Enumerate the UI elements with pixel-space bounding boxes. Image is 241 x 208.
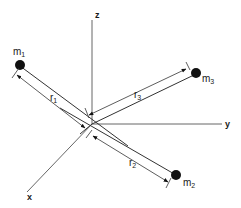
mass-m2-dot xyxy=(171,170,181,180)
dimension-lines: r1 r2 r3 xyxy=(12,62,190,188)
mass-m1-label: m1 xyxy=(13,46,25,58)
coordinate-diagram: z y x m1 m2 m3 r1 xyxy=(0,0,241,208)
x-axis-label: x xyxy=(27,192,32,202)
rod-m1 xyxy=(20,66,128,146)
x-axis xyxy=(27,124,92,192)
mass-m1-dot xyxy=(15,60,25,70)
r3-tick-start xyxy=(85,108,89,118)
rod-m3 xyxy=(92,74,196,124)
r2-label: r2 xyxy=(129,157,136,169)
y-axis-label: y xyxy=(225,119,230,129)
r3-tick-end xyxy=(186,62,190,70)
r1-label: r1 xyxy=(50,92,57,104)
mass-m3-dot xyxy=(191,68,201,78)
mass-m3-label: m3 xyxy=(202,73,214,85)
r3-dimension xyxy=(89,69,186,115)
r2-tick-end xyxy=(166,178,171,188)
rods xyxy=(20,66,196,175)
mass-m2-label: m2 xyxy=(183,177,195,189)
r2-tick-start xyxy=(86,130,92,138)
masses: m1 m2 m3 xyxy=(13,46,214,189)
rod-m2 xyxy=(60,108,176,175)
r1-tick-start xyxy=(12,68,19,78)
z-axis-label: z xyxy=(95,10,100,20)
